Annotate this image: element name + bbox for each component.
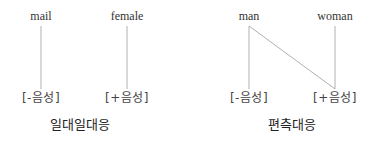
right-line-diagonal — [249, 26, 335, 89]
word-woman: woman — [317, 10, 352, 22]
caption-one-to-one: 일대일대응 — [50, 118, 110, 131]
feature-minus: [-음성] — [22, 92, 60, 104]
caption-one-sided: 편측대응 — [268, 118, 316, 131]
feature-plus: [+음성] — [313, 92, 357, 104]
word-female: female — [111, 10, 144, 22]
feature-plus: [+음성] — [105, 92, 149, 104]
feature-minus: [-음성] — [230, 92, 268, 104]
word-mail: mail — [30, 10, 51, 22]
word-man: man — [239, 10, 260, 22]
